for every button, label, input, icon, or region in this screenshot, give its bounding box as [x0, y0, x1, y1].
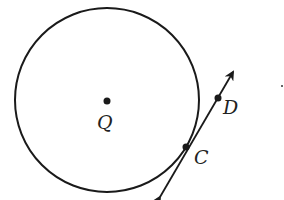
point-d: [215, 95, 222, 102]
label-q: Q: [97, 111, 113, 133]
label-d: D: [222, 96, 238, 118]
point-c: [183, 144, 190, 151]
point-q: [104, 98, 111, 105]
label-c: C: [194, 146, 209, 168]
stray-mark: [281, 85, 283, 87]
diagram-canvas: Q C D: [0, 0, 284, 200]
tangent-line-cd: [160, 72, 233, 197]
geometry-diagram: Q C D: [0, 0, 284, 200]
